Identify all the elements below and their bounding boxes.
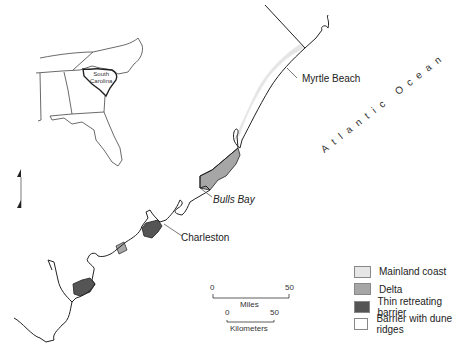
bulls-bay-label: Bulls Bay	[213, 194, 255, 205]
coastline	[14, 5, 329, 342]
swatch-thin-barrier	[354, 301, 370, 313]
charleston-label: Charleston	[181, 232, 229, 243]
delta-region	[200, 148, 240, 190]
scale-miles-start: 0	[210, 283, 214, 292]
inset-state-label: South Carolina	[90, 71, 112, 85]
legend-item-mainland-coast: Mainland coast	[354, 263, 464, 281]
scale-km-start: 0	[225, 308, 229, 317]
legend: Mainland coast Delta Thin retreating bar…	[354, 263, 464, 333]
scale-km-unit: Kilometers	[230, 324, 268, 333]
swatch-mainland-coast	[354, 266, 371, 278]
swatch-dune-barrier	[354, 318, 368, 330]
delta-region-small	[116, 242, 127, 254]
legend-item-dune-barrier: Barrier with dune ridges	[354, 316, 464, 334]
swatch-delta	[354, 283, 371, 295]
myrtle-beach-label: Myrtle Beach	[302, 73, 360, 84]
inset-map	[36, 38, 143, 166]
leader-lines	[164, 68, 297, 236]
scale-miles-unit: Miles	[240, 300, 259, 309]
scale-km-end: 50	[270, 308, 279, 317]
scale-miles-end: 50	[285, 283, 294, 292]
thin-barrier-south	[73, 278, 95, 296]
north-arrow-icon	[17, 169, 21, 208]
